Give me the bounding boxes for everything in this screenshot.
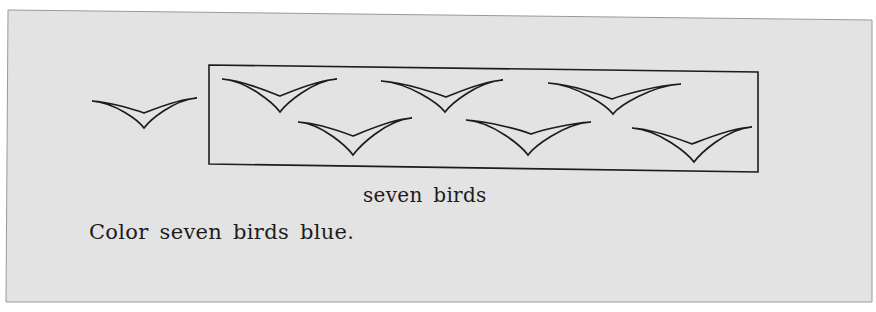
paper-sheet [6, 10, 872, 302]
instruction-text: Color seven birds blue. [89, 220, 354, 244]
worksheet-page: seven birds Color seven birds blue. [0, 0, 876, 312]
worksheet-illustration [0, 0, 876, 312]
box-caption: seven birds [363, 183, 487, 207]
